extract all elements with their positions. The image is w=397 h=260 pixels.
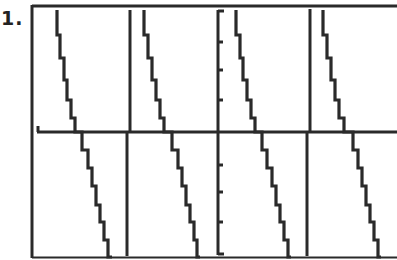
calculator-graph xyxy=(0,0,397,260)
